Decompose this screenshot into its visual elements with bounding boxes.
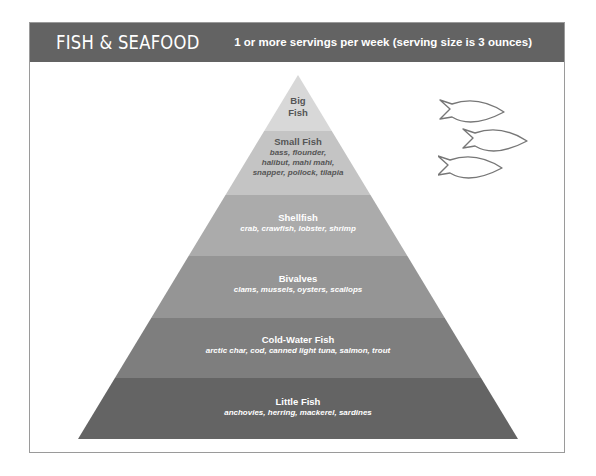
tier-name: Little Fish (148, 396, 448, 408)
tier-items: halibut, mahi mahi, (148, 158, 448, 168)
label-cold-water-fish: Cold-Water Fish arctic char, cod, canned… (148, 334, 448, 356)
tier-name: Bivalves (148, 273, 448, 285)
tier-items: arctic char, cod, canned light tuna, sal… (148, 346, 448, 356)
fish-icon (438, 156, 502, 178)
label-big-fish: Big Fish (148, 95, 448, 119)
label-little-fish: Little Fish anchovies, herring, mackerel… (148, 396, 448, 418)
fish-icon (463, 129, 527, 151)
fish-school-icon (438, 95, 538, 190)
tier-items: anchovies, herring, mackerel, sardines (148, 408, 448, 418)
tier-items: snapper, pollock, tilapia (148, 168, 448, 178)
tier-items: clams, mussels, oysters, scallops (148, 285, 448, 295)
tier-items: bass, flounder, (148, 148, 448, 158)
tier-name: Small Fish (148, 136, 448, 148)
tier-name: Cold-Water Fish (148, 334, 448, 346)
label-shellfish: Shellfish crab, crawfish, lobster, shrim… (148, 212, 448, 234)
label-bivalves: Bivalves clams, mussels, oysters, scallo… (148, 273, 448, 295)
tier-items: crab, crawfish, lobster, shrimp (148, 224, 448, 234)
label-small-fish: Small Fish bass, flounder, halibut, mahi… (148, 136, 448, 178)
tier-name: Fish (148, 107, 448, 119)
tier-name: Big (148, 95, 448, 107)
fish-icon (440, 100, 504, 122)
tier-name: Shellfish (148, 212, 448, 224)
